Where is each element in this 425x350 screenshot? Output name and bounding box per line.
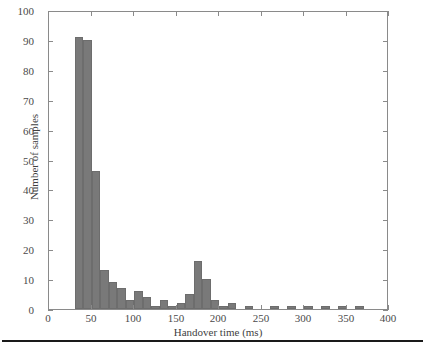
y-tick-mark [383,161,388,162]
x-tick-mark [218,305,219,310]
histogram-bar [134,291,143,309]
x-tick-mark [176,11,177,16]
y-tick-mark [48,220,53,221]
histogram-bar [304,306,313,309]
histogram-bar [117,288,126,309]
histogram-bar [185,294,194,309]
y-tick-mark [48,131,53,132]
histogram-bar [83,40,92,309]
histogram-bar [245,306,254,309]
histogram-bar [143,297,152,309]
x-tick-mark [133,305,134,310]
x-tick-mark [303,11,304,16]
x-tick-mark [48,305,49,310]
y-tick-label: 90 [0,36,34,47]
histogram-bar [75,37,84,309]
x-tick-label: 250 [241,312,281,324]
y-tick-mark [383,101,388,102]
histogram-bar [177,303,186,309]
histogram-bar [160,300,169,309]
page-divider-rule [2,340,423,342]
y-tick-label: 10 [0,275,34,286]
histogram-bar [219,306,228,309]
y-tick-mark [48,310,53,311]
histogram-bar [151,306,160,309]
x-axis-title: Handover time (ms) [48,326,388,338]
y-tick-mark [383,190,388,191]
x-tick-label: 300 [283,312,323,324]
plot-area [49,12,387,309]
histogram-figure: 0102030405060708090100 05010015020025030… [0,0,425,350]
x-tick-label: 350 [326,312,366,324]
y-tick-mark [48,250,53,251]
x-tick-mark [218,11,219,16]
y-tick-mark [48,41,53,42]
x-tick-label: 400 [368,312,408,324]
histogram-bar [100,270,109,309]
x-tick-mark [91,11,92,16]
y-tick-mark [383,131,388,132]
y-tick-mark [383,250,388,251]
histogram-bar [202,279,211,309]
x-tick-label: 150 [156,312,196,324]
x-tick-mark [303,305,304,310]
x-tick-mark [133,11,134,16]
x-tick-mark [48,11,49,16]
x-tick-mark [346,11,347,16]
x-tick-label: 0 [28,312,68,324]
y-tick-mark [48,101,53,102]
y-tick-mark [383,220,388,221]
x-tick-label: 200 [198,312,238,324]
x-tick-mark [261,305,262,310]
y-tick-mark [48,280,53,281]
x-tick-label: 100 [113,312,153,324]
x-tick-mark [176,305,177,310]
y-tick-label: 100 [0,6,34,17]
y-axis-title: Number of samples [28,57,40,257]
histogram-bar [194,261,203,309]
histogram-bar [109,282,118,309]
y-tick-mark [48,161,53,162]
y-tick-mark [383,71,388,72]
histogram-bar [287,306,296,309]
y-tick-mark [383,310,388,311]
y-tick-mark [48,71,53,72]
plot-frame [48,11,388,310]
y-tick-mark [383,41,388,42]
x-tick-mark [388,11,389,16]
x-tick-mark [388,305,389,310]
x-tick-label: 50 [71,312,111,324]
y-tick-mark [383,280,388,281]
x-tick-mark [261,11,262,16]
y-tick-mark [48,190,53,191]
histogram-bar [92,171,101,309]
histogram-bar [355,306,364,309]
x-tick-mark [346,305,347,310]
x-tick-mark [91,305,92,310]
histogram-bar [228,303,237,309]
histogram-bar [321,306,330,309]
histogram-bar [270,306,279,309]
